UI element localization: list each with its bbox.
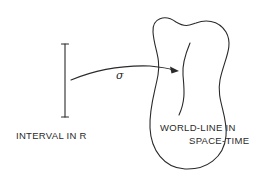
region-label-line2: SPACE-TIME: [189, 135, 249, 146]
sigma-arrow: [71, 66, 179, 80]
arrowhead-icon: [170, 67, 179, 74]
region-label-line1: WORLD-LINE IN: [160, 122, 236, 133]
interval-label: INTERVAL IN R: [16, 130, 87, 141]
diagram-canvas: σ INTERVAL IN R WORLD-LINE IN SPACE-TIME: [0, 0, 271, 178]
world-line-curve: [179, 43, 190, 115]
spacetime-region-outline: [150, 18, 229, 169]
sigma-label: σ: [116, 69, 124, 82]
interval-segment: [62, 44, 69, 117]
